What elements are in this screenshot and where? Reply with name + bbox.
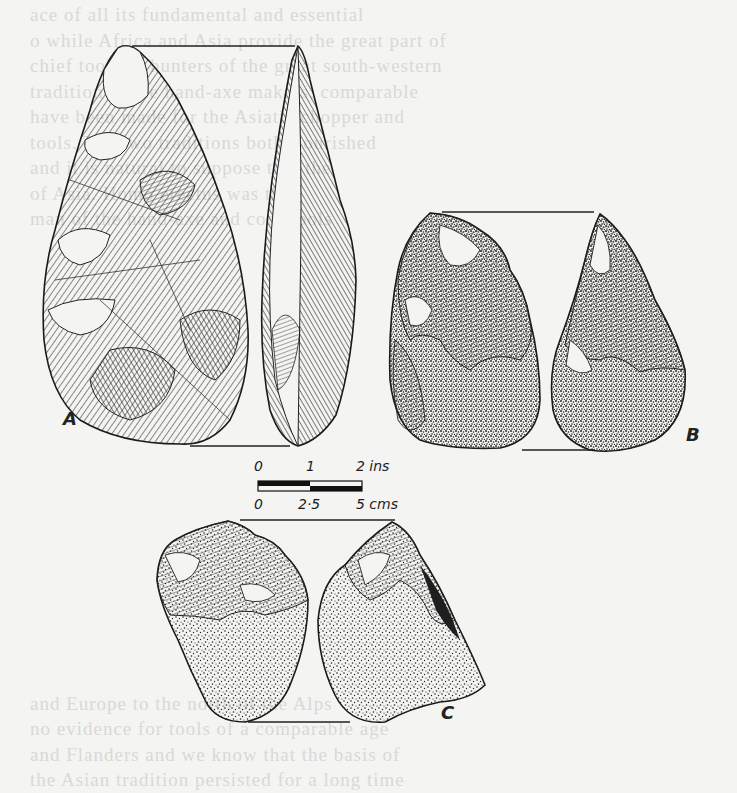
tool-b-side-view <box>552 214 686 451</box>
tool-a-front-view <box>43 46 248 444</box>
tool-b <box>390 212 686 451</box>
tool-a-side-view <box>262 46 356 446</box>
scale-inch-2: 2 ins <box>356 458 389 474</box>
scale-cm-2-5: 2·5 <box>298 496 320 512</box>
figure-label-c: C <box>441 702 454 723</box>
figure-label-a: A <box>63 408 77 429</box>
scale-cm-5: 5 cms <box>356 496 398 512</box>
scale-inch-1: 1 <box>306 458 315 474</box>
bleed-through-line: the Asian tradition persisted for a long… <box>30 767 737 793</box>
tool-c-side-view <box>318 522 485 722</box>
tool-c-front-view <box>157 521 308 722</box>
tool-b-front-view <box>390 213 540 448</box>
scale-bar <box>258 481 362 491</box>
scale-inch-0: 0 <box>254 458 263 474</box>
scale-cm-0: 0 <box>254 496 263 512</box>
tool-c <box>157 520 485 722</box>
figure-label-b: B <box>686 424 700 445</box>
tool-a <box>43 46 356 446</box>
